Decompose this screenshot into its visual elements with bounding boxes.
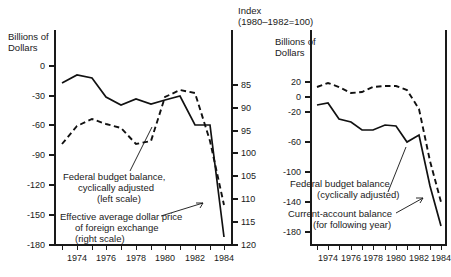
right-panel-ann2-line2: (for following year) — [313, 219, 391, 230]
right-panel-xticklabel-1980: 1980 — [386, 253, 406, 263]
left-panel-yticklabel-2: -60 — [32, 120, 45, 130]
left-panel-y2ticklabel-3: 100 — [241, 148, 256, 158]
left-panel-ann2-line3: (right scale) — [75, 233, 125, 244]
right-panel-axis-title-line1: Billions of — [275, 36, 316, 47]
chart-canvas: Billions of Dollars 0 -30 -60 -90 -120 — [0, 0, 451, 277]
right-panel-ann1-line1: Federal budget balance — [290, 178, 390, 189]
left-panel-y2ticklabel-0: 85 — [241, 80, 251, 90]
left-panel-left-axis-title-line2: Dollars — [8, 42, 38, 53]
left-panel-ann1-line3: (left scale) — [97, 193, 141, 204]
left-panel-y2ticklabel-7: 120 — [241, 240, 256, 250]
right-panel-yticklabel-1: 0 — [296, 92, 301, 102]
right-panel: Billions of Dollars 20 0 -20 -60 -100 -1… — [275, 30, 451, 263]
left-panel-y2-ticks — [232, 85, 238, 245]
left-panel-ann1-line1: Federal budget balance, — [63, 171, 165, 182]
left-panel-y2ticklabel-2: 95 — [241, 126, 251, 136]
left-panel-y2-ticklabels: 85 90 95 100 105 110 115 120 — [241, 80, 256, 250]
left-panel: Billions of Dollars 0 -30 -60 -90 -120 — [8, 5, 313, 263]
left-panel-xticklabel-1976: 1976 — [96, 253, 116, 263]
right-panel-x-ticklabels: 1974 1976 1978 1980 1982 1984 — [318, 253, 451, 263]
left-panel-ann1-line2: cyclically adjusted — [78, 182, 154, 193]
right-panel-xticklabel-1978: 1978 — [363, 253, 383, 263]
left-panel-ann2-line1: Effective average dollar price — [60, 211, 182, 222]
left-panel-y2ticklabel-1: 90 — [241, 103, 251, 113]
right-panel-ann1-line2: (cyclically adjusted) — [317, 189, 399, 200]
right-panel-x-ticks — [317, 245, 441, 250]
right-panel-xticklabel-1984: 1984 — [431, 253, 451, 263]
left-panel-y-ticklabels: 0 -30 -60 -90 -120 -150 -180 — [27, 61, 45, 250]
right-panel-xticklabel-1974: 1974 — [318, 253, 338, 263]
left-panel-y2ticklabel-5: 110 — [241, 194, 255, 204]
left-panel-yticklabel-1: -30 — [32, 91, 45, 101]
right-panel-yticklabel-2: -20 — [288, 107, 301, 117]
left-panel-annotation-dollar-price: Effective average dollar price of foreig… — [60, 203, 203, 244]
right-panel-yticklabel-3: -60 — [288, 137, 301, 147]
right-panel-annotation-budget-balance: Federal budget balance (cyclically adjus… — [290, 147, 406, 200]
right-panel-ann2-line1: Current-account balance — [288, 208, 392, 219]
left-panel-xticklabel-1974: 1974 — [67, 253, 87, 263]
left-panel-y-ticks — [49, 66, 55, 245]
right-panel-xticklabel-1976: 1976 — [341, 253, 361, 263]
left-panel-xticklabel-1980: 1980 — [155, 253, 175, 263]
left-panel-annotation-budget-balance: Federal budget balance, cyclically adjus… — [63, 127, 165, 204]
right-panel-annotation-current-account: Current-account balance (for following y… — [288, 198, 423, 230]
left-panel-yticklabel-4: -120 — [27, 180, 45, 190]
left-panel-y2ticklabel-4: 105 — [241, 171, 256, 181]
left-panel-yticklabel-6: -180 — [27, 240, 45, 250]
left-panel-yticklabel-3: -90 — [32, 150, 45, 160]
left-panel-right-axis-title-line2: (1980–1982=100) — [238, 16, 313, 27]
left-panel-left-axis-title-line1: Billions of — [8, 31, 49, 42]
left-panel-x-ticklabels: 1974 1976 1978 1980 1982 1984 — [67, 253, 234, 263]
left-panel-y2ticklabel-6: 115 — [241, 217, 255, 227]
left-panel-x-ticks — [62, 245, 224, 250]
left-panel-right-axis-title-line1: Index — [238, 5, 261, 16]
left-panel-xticklabel-1978: 1978 — [126, 253, 146, 263]
right-panel-yticklabel-0: 20 — [291, 77, 301, 87]
left-panel-yticklabel-5: -150 — [27, 210, 45, 220]
left-panel-xticklabel-1984: 1984 — [214, 253, 234, 263]
left-panel-yticklabel-0: 0 — [40, 61, 45, 71]
left-panel-ann2-line2: of foreign exchange — [75, 222, 158, 233]
right-panel-yticklabel-5: -140 — [283, 197, 301, 207]
right-panel-yticklabel-6: -180 — [283, 227, 301, 237]
right-panel-xticklabel-1982: 1982 — [409, 253, 429, 263]
right-panel-axis-title-line2: Dollars — [275, 47, 305, 58]
chart-figure: Billions of Dollars 0 -30 -60 -90 -120 — [0, 0, 451, 277]
right-panel-yticklabel-4: -100 — [283, 167, 301, 177]
left-panel-xticklabel-1982: 1982 — [185, 253, 205, 263]
